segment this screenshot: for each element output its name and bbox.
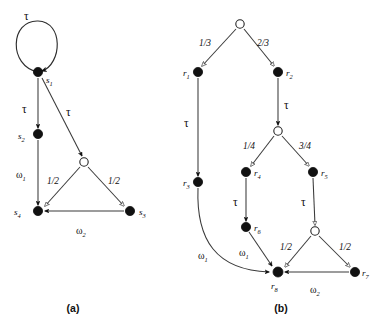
caption-a: (a) — [67, 302, 80, 314]
node-prob-b-low[interactable] — [311, 227, 319, 235]
edge-label-s1-s2: τ — [22, 103, 27, 115]
edge-label-prob-s4: 1/2 — [47, 176, 59, 186]
diagram-b-group: r1 r2 r3 r4 r5 r6 r8 r7 1 — [183, 20, 370, 297]
node-r7[interactable] — [350, 267, 359, 276]
edge-label-s1-self: τ — [24, 10, 29, 22]
figure-canvas: s1 s2 s4 s3 τ τ τ ω1 1/2 1/2 ω2 — [0, 0, 382, 332]
edge-label-probmid-r4: 1/4 — [243, 141, 255, 151]
node-s3[interactable] — [125, 206, 134, 215]
node-r3[interactable] — [193, 177, 202, 186]
node-label-r5: r5 — [321, 168, 328, 180]
node-label-r4: r4 — [254, 168, 262, 180]
edge-label-s3-s4: ω2 — [76, 225, 87, 238]
edge-label-r4-r6: τ — [233, 196, 238, 208]
figure-root: s1 s2 s4 s3 τ τ τ ω1 1/2 1/2 ω2 — [0, 0, 382, 332]
node-prob-b-mid[interactable] — [274, 127, 282, 135]
edge-prob-s3 — [88, 167, 124, 206]
node-label-s2: s2 — [18, 131, 26, 143]
edge-label-root-r2: 2/3 — [257, 38, 269, 48]
edge-label-r2-probmid: τ — [284, 99, 289, 111]
node-label-r8: r8 — [271, 281, 279, 293]
node-root-b[interactable] — [236, 20, 244, 28]
caption-b: (b) — [274, 302, 287, 314]
node-s1[interactable] — [33, 67, 42, 76]
edge-label-s1-prob: τ — [66, 106, 71, 118]
node-prob-a[interactable] — [80, 158, 88, 166]
edge-s1-prob — [42, 78, 82, 156]
edge-label-prob-s3: 1/2 — [108, 176, 120, 186]
edge-label-r7-r8: ω2 — [310, 284, 321, 297]
node-r8[interactable] — [273, 267, 283, 277]
edge-label-probmid-r5: 3/4 — [298, 141, 311, 151]
node-r5[interactable] — [308, 167, 317, 176]
node-s2[interactable] — [33, 129, 42, 138]
edge-s1-self-loop — [16, 21, 57, 72]
node-label-r2: r2 — [286, 68, 294, 80]
edge-label-r6-r8: ω1 — [239, 247, 249, 260]
node-r4[interactable] — [241, 167, 250, 176]
edge-r5-problow — [313, 178, 315, 225]
diagram-a-group: s1 s2 s4 s3 τ τ τ ω1 1/2 1/2 ω2 — [14, 10, 146, 238]
edge-label-s2-s4: ω1 — [16, 169, 26, 182]
node-label-r1: r1 — [183, 68, 190, 80]
node-label-r7: r7 — [362, 268, 370, 280]
edge-label-problow-r7: 1/2 — [339, 242, 351, 252]
node-label-r3: r3 — [183, 178, 190, 190]
edge-r6-r8 — [249, 232, 272, 266]
edge-label-r1-r3: τ — [184, 117, 189, 129]
node-label-r6: r6 — [254, 223, 262, 235]
edge-label-problow-r8: 1/2 — [280, 242, 292, 252]
node-r2[interactable] — [273, 67, 282, 76]
edge-label-root-r1: 1/3 — [199, 38, 211, 48]
edge-prob-s4 — [45, 167, 80, 206]
node-label-s1: s1 — [46, 75, 53, 87]
edge-label-r5-problow: τ — [301, 196, 306, 208]
node-label-s4: s4 — [14, 207, 22, 219]
node-label-s3: s3 — [139, 207, 146, 219]
edge-label-r3-r8: ω1 — [198, 250, 208, 263]
node-r1[interactable] — [193, 67, 202, 76]
node-s4[interactable] — [33, 206, 42, 215]
node-r6[interactable] — [241, 222, 250, 231]
